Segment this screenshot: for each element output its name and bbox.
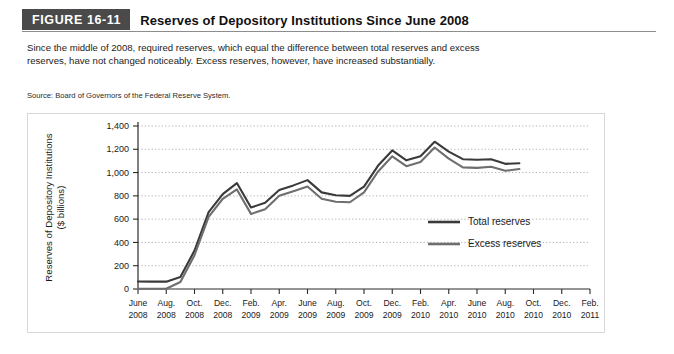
x-tick-year: 2010: [467, 310, 486, 320]
legend-label: Excess reserves: [468, 238, 541, 249]
x-tick-year: 2009: [298, 310, 317, 320]
y-tick-label: 1,400: [106, 121, 129, 131]
y-axis-title: Reserves of Depository Institutions($ bi…: [43, 133, 66, 281]
x-tick-month: Aug.: [327, 298, 345, 308]
x-tick-year: 2011: [581, 310, 600, 320]
x-tick-month: June: [468, 298, 487, 308]
figure-number-badge: FIGURE 16-11: [22, 9, 130, 30]
x-tick-year: 2008: [185, 310, 204, 320]
x-tick-month: Aug.: [496, 298, 514, 308]
reserves-line-chart: 02004006008001,0001,2001,400 June2008Aug…: [28, 114, 604, 332]
chart-legend: Total reservesExcess reserves: [428, 216, 541, 249]
series-line-excess-reserves: [138, 148, 519, 289]
figure-caption: Since the middle of 2008, required reser…: [27, 41, 507, 68]
y-axis-title-line2: ($ billions): [55, 186, 66, 230]
y-tick-label: 200: [114, 261, 129, 271]
x-tick-year: 2010: [496, 310, 515, 320]
y-tick-label: 400: [114, 238, 129, 248]
y-tick-label: 1,000: [106, 168, 129, 178]
x-axis-ticks: [138, 289, 590, 294]
x-tick-year: 2010: [439, 310, 458, 320]
y-tick-label: 600: [114, 214, 129, 224]
x-tick-year: 2010: [524, 310, 543, 320]
x-tick-month: Feb.: [412, 298, 429, 308]
x-tick-month: Apr.: [441, 298, 456, 308]
x-tick-month: Dec.: [214, 298, 232, 308]
chart-series: [138, 142, 519, 289]
x-tick-month: Aug.: [157, 298, 175, 308]
x-tick-year: 2010: [411, 310, 430, 320]
x-tick-month: Dec.: [383, 298, 401, 308]
figure-header: FIGURE 16-11 Reserves of Depository Inst…: [22, 9, 656, 31]
x-tick-year: 2009: [241, 310, 260, 320]
x-tick-month: Oct.: [526, 298, 542, 308]
figure-source: Source: Board of Governors of the Federa…: [27, 90, 507, 101]
x-tick-year: 2009: [354, 310, 373, 320]
x-tick-month: June: [298, 298, 317, 308]
x-tick-year: 2010: [552, 310, 571, 320]
x-tick-year: 2008: [128, 310, 147, 320]
legend-label: Total reserves: [468, 216, 530, 227]
series-line-total-reserves: [138, 142, 519, 282]
x-tick-year: 2009: [270, 310, 289, 320]
y-tick-label: 1,200: [106, 144, 129, 154]
y-axis-tick-labels: 02004006008001,0001,2001,400: [106, 121, 129, 294]
y-tick-label: 800: [114, 191, 129, 201]
header-divider: [22, 31, 656, 32]
x-tick-year: 2009: [326, 310, 345, 320]
x-tick-month: Oct.: [187, 298, 203, 308]
chart-panel: 02004006008001,0001,2001,400 June2008Aug…: [27, 113, 605, 333]
x-tick-month: June: [129, 298, 148, 308]
figure-title: Reserves of Depository Institutions Sinc…: [130, 9, 469, 31]
x-tick-month: Oct.: [356, 298, 372, 308]
y-axis-title-line1: Reserves of Depository Institutions: [43, 133, 54, 281]
x-tick-month: Feb.: [581, 298, 598, 308]
x-tick-month: Feb.: [242, 298, 259, 308]
x-tick-month: Apr.: [272, 298, 287, 308]
x-tick-year: 2008: [213, 310, 232, 320]
y-axis-ticks: [133, 126, 138, 289]
x-tick-year: 2009: [383, 310, 402, 320]
y-tick-label: 0: [124, 284, 129, 294]
x-tick-month: Dec.: [553, 298, 571, 308]
x-tick-year: 2008: [157, 310, 176, 320]
x-axis-tick-labels: June2008Aug.2008Oct.2008Dec.2008Feb.2009…: [128, 298, 599, 320]
